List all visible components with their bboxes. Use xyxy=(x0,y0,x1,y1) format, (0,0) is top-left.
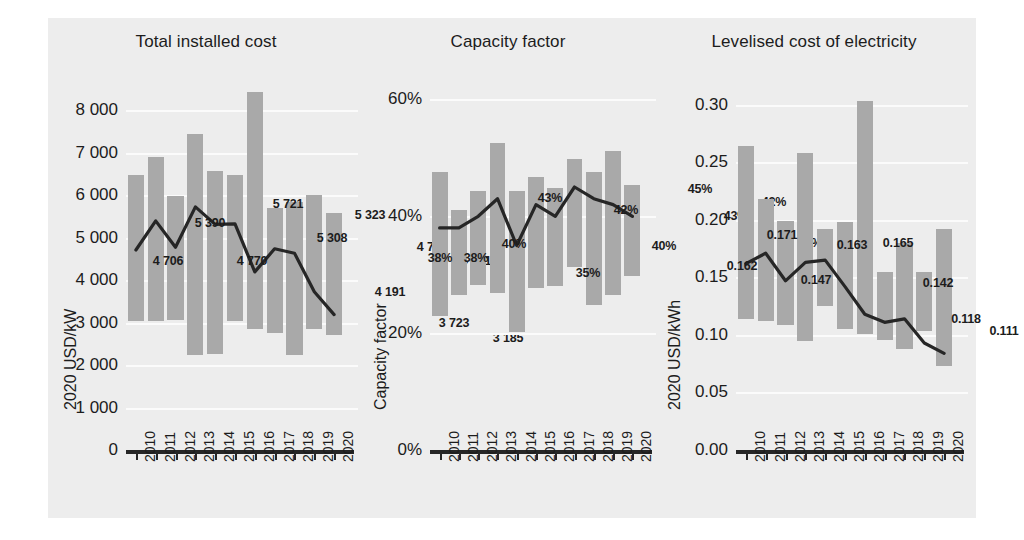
x-axis-tick xyxy=(766,454,768,460)
data-value-label: 0.163 xyxy=(837,238,867,252)
x-axis-tick xyxy=(944,454,946,460)
x-axis-tick xyxy=(746,454,748,460)
data-value-label: 0.162 xyxy=(727,259,757,273)
data-value-label: 0.171 xyxy=(767,228,797,242)
x-axis-tick xyxy=(176,454,178,460)
x-axis-tick xyxy=(294,454,296,460)
figure-canvas: Total installed cost2020 USD/kW01 0002 0… xyxy=(48,18,976,518)
x-axis-tick xyxy=(924,454,926,460)
data-value-label: 5 390 xyxy=(195,216,225,230)
x-axis-tick-label: 2020 xyxy=(340,431,356,462)
x-axis-tick xyxy=(786,454,788,460)
x-axis-tick xyxy=(594,454,596,460)
data-value-label: 5 721 xyxy=(273,197,303,211)
data-value-label: 0.165 xyxy=(883,236,913,250)
data-value-label: 42% xyxy=(614,203,638,217)
x-axis-tick xyxy=(195,454,197,460)
chart-panel-1: Total installed cost2020 USD/kW01 0002 0… xyxy=(48,18,364,518)
x-axis-tick xyxy=(613,454,615,460)
x-axis-tick xyxy=(555,454,557,460)
data-value-label: 43% xyxy=(538,191,562,205)
x-axis-tick xyxy=(632,454,634,460)
data-value-label: 0.111 xyxy=(990,324,1019,338)
data-value-label: 38% xyxy=(464,251,488,265)
x-axis-tick xyxy=(334,454,336,460)
data-value-label: 4 706 xyxy=(153,254,183,268)
data-value-label: 40% xyxy=(502,237,526,251)
x-axis-tick xyxy=(517,454,519,460)
x-axis-tick xyxy=(536,454,538,460)
x-axis-tick xyxy=(255,454,257,460)
data-value-label: 35% xyxy=(576,266,600,280)
x-axis-tick xyxy=(904,454,906,460)
data-value-label: 5 308 xyxy=(317,231,347,245)
x-axis-tick xyxy=(314,454,316,460)
x-axis-tick xyxy=(825,454,827,460)
data-value-label: 4 770 xyxy=(237,254,267,268)
x-axis-tick xyxy=(805,454,807,460)
x-axis-tick xyxy=(440,454,442,460)
x-axis-tick xyxy=(156,454,158,460)
x-axis-tick xyxy=(459,454,461,460)
chart-panel-3: Levelised cost of electricity2020 USD/kW… xyxy=(652,18,976,518)
x-axis-tick xyxy=(575,454,577,460)
x-axis-tick xyxy=(865,454,867,460)
x-axis-tick xyxy=(885,454,887,460)
x-axis-tick xyxy=(215,454,217,460)
x-axis-tick xyxy=(136,454,138,460)
x-axis-tick xyxy=(845,454,847,460)
data-value-label: 0.142 xyxy=(923,276,953,290)
data-value-label: 0.147 xyxy=(801,273,831,287)
x-axis-tick xyxy=(478,454,480,460)
x-axis-tick-label: 2020 xyxy=(950,431,966,462)
x-axis-tick xyxy=(235,454,237,460)
chart-panel-2: Capacity factorCapacity factor0%20%40%60… xyxy=(358,18,658,518)
x-axis-tick xyxy=(497,454,499,460)
data-value-label: 38% xyxy=(428,251,452,265)
data-value-label: 0.118 xyxy=(951,312,981,326)
x-axis-tick xyxy=(275,454,277,460)
